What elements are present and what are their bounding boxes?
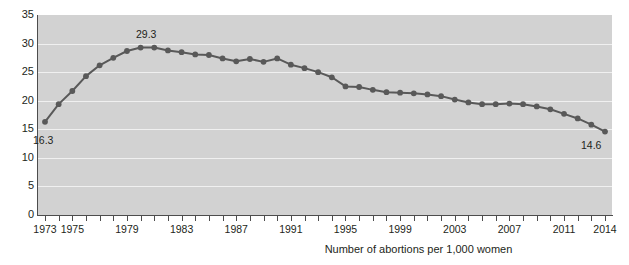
x-tick-1974 [59, 216, 60, 221]
data-point [42, 119, 48, 125]
x-tick-2010 [550, 216, 551, 221]
x-tick-label-2003: 2003 [443, 223, 466, 235]
series-line [0, 0, 629, 265]
x-tick-1982 [168, 216, 169, 221]
x-tick-2006 [496, 216, 497, 221]
data-point [124, 48, 130, 54]
x-tick-2001 [427, 216, 428, 221]
data-point [588, 122, 594, 128]
data-point [547, 106, 553, 112]
x-tick-1975 [72, 216, 73, 221]
x-tick-1978 [113, 216, 114, 221]
x-tick-1993 [318, 216, 319, 221]
x-tick-1987 [236, 216, 237, 221]
data-point [110, 55, 116, 61]
data-point [247, 56, 253, 62]
data-point [397, 90, 403, 96]
x-tick-1988 [250, 216, 251, 221]
x-tick-label-1987: 1987 [225, 223, 248, 235]
data-point [575, 116, 581, 122]
x-tick-1994 [332, 216, 333, 221]
data-point [370, 87, 376, 93]
x-tick-2000 [414, 216, 415, 221]
x-tick-1984 [195, 216, 196, 221]
x-tick-2003 [455, 216, 456, 221]
data-point [452, 97, 458, 103]
x-tick-1985 [209, 216, 210, 221]
x-tick-2013 [591, 216, 592, 221]
x-tick-label-1991: 1991 [279, 223, 302, 235]
x-tick-label-2014: 2014 [593, 223, 616, 235]
data-point [192, 52, 198, 58]
data-point [83, 73, 89, 79]
point-label-last: 14.6 [581, 139, 601, 151]
x-tick-1986 [223, 216, 224, 221]
x-tick-label-1975: 1975 [61, 223, 84, 235]
data-point [69, 88, 75, 94]
data-point [493, 101, 499, 107]
data-point [233, 58, 239, 64]
data-point [343, 84, 349, 90]
x-tick-label-1999: 1999 [388, 223, 411, 235]
x-tick-2012 [578, 216, 579, 221]
data-point [561, 111, 567, 117]
x-tick-1999 [400, 216, 401, 221]
x-tick-1989 [264, 216, 265, 221]
point-label-first: 16.3 [33, 134, 53, 146]
x-tick-1979 [127, 216, 128, 221]
data-point [220, 56, 226, 62]
x-tick-1996 [359, 216, 360, 221]
x-tick-label-1983: 1983 [170, 223, 193, 235]
x-tick-2009 [537, 216, 538, 221]
axis-caption-text: Number of abortions per 1,000 women [325, 243, 513, 255]
data-point [179, 49, 185, 55]
axis-caption: Number of abortions per 1,000 women [0, 243, 629, 255]
point-label-peak: 29.3 [136, 28, 156, 40]
x-tick-1990 [277, 216, 278, 221]
x-tick-2007 [509, 216, 510, 221]
x-tick-2014 [605, 216, 606, 221]
x-tick-1980 [141, 216, 142, 221]
x-tick-1997 [373, 216, 374, 221]
x-tick-1998 [386, 216, 387, 221]
x-tick-label-2007: 2007 [498, 223, 521, 235]
data-point [466, 100, 472, 106]
data-point [356, 84, 362, 90]
x-tick-1991 [291, 216, 292, 221]
data-point [165, 48, 171, 54]
data-point [151, 45, 157, 51]
data-point [438, 93, 444, 99]
data-point [506, 101, 512, 107]
data-point [302, 65, 308, 71]
data-point [520, 101, 526, 107]
x-tick-label-1995: 1995 [334, 223, 357, 235]
abortion-rate-line-chart: 35 30 25 20 15 10 5 0 197319751979198319… [0, 0, 629, 265]
data-point [315, 69, 321, 75]
data-point [274, 56, 280, 62]
x-tick-label-1973: 1973 [33, 223, 56, 235]
x-tick-label-1979: 1979 [115, 223, 138, 235]
x-tick-1977 [100, 216, 101, 221]
x-tick-1995 [345, 216, 346, 221]
data-point [261, 59, 267, 65]
data-point [56, 101, 62, 107]
x-tick-2005 [482, 216, 483, 221]
data-point [97, 62, 103, 68]
data-point [329, 74, 335, 80]
data-point [206, 52, 212, 58]
data-point [479, 101, 485, 107]
data-point [138, 45, 144, 51]
data-point [425, 92, 431, 98]
data-point [288, 62, 294, 68]
x-tick-label-2011: 2011 [553, 223, 576, 235]
data-point [602, 129, 608, 135]
x-tick-1976 [86, 216, 87, 221]
x-tick-2004 [468, 216, 469, 221]
x-tick-1973 [45, 216, 46, 221]
data-point [411, 90, 417, 96]
data-point [534, 104, 540, 110]
x-tick-2011 [564, 216, 565, 221]
x-tick-2002 [441, 216, 442, 221]
x-tick-2008 [523, 216, 524, 221]
x-tick-1981 [154, 216, 155, 221]
